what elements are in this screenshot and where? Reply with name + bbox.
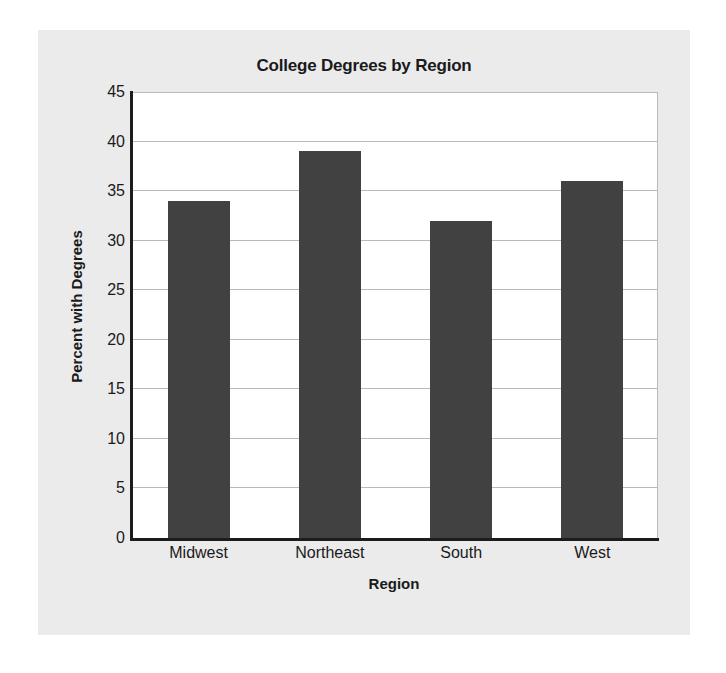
chart-title: College Degrees by Region: [38, 56, 690, 76]
y-axis-tick-label: 25: [79, 281, 125, 299]
y-axis-tick-label: 45: [79, 83, 125, 101]
bar: [299, 151, 361, 538]
x-axis-tick-label: West: [527, 544, 658, 562]
plot-frame: [133, 92, 658, 538]
bar: [168, 201, 230, 538]
bar: [430, 221, 492, 538]
y-axis-tick-label: 5: [79, 479, 125, 497]
y-axis-line: [130, 91, 133, 541]
gridline: [133, 141, 657, 142]
x-axis-tick-labels: MidwestNortheastSouthWest: [133, 544, 658, 570]
chart-panel: College Degrees by Region Percent with D…: [38, 30, 690, 635]
y-axis-tick-label: 15: [79, 380, 125, 398]
x-axis-title: Region: [130, 575, 658, 592]
y-axis-tick-labels: 454035302520151050: [73, 92, 125, 538]
y-axis-tick-label: 20: [79, 331, 125, 349]
y-axis-tick-label: 0: [79, 529, 125, 547]
y-axis-tick-label: 40: [79, 133, 125, 151]
x-axis-tick-label: Northeast: [264, 544, 395, 562]
x-axis-line: [130, 538, 659, 541]
bar: [561, 181, 623, 538]
x-axis-tick-label: South: [396, 544, 527, 562]
y-axis-tick-label: 35: [79, 182, 125, 200]
x-axis-tick-label: Midwest: [133, 544, 264, 562]
chart-page: College Degrees by Region Percent with D…: [0, 0, 726, 673]
y-axis-tick-label: 30: [79, 232, 125, 250]
y-axis-tick-label: 10: [79, 430, 125, 448]
